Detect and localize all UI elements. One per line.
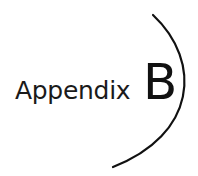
appendix-label: Appendix (15, 78, 130, 103)
appendix-letter: B (143, 57, 177, 107)
